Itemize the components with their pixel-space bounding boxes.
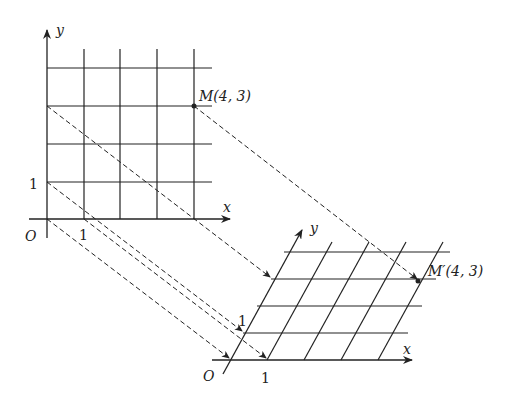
left-y-label: y xyxy=(55,22,65,38)
right-x-label: x xyxy=(403,341,411,357)
proj-origin xyxy=(47,219,229,358)
right-grid xyxy=(243,242,450,360)
right-origin-label: O xyxy=(203,368,215,384)
left-y-tick-1: 1 xyxy=(29,176,38,192)
left-origin-label: O xyxy=(25,228,37,244)
proj-y3 xyxy=(47,106,270,277)
proj-x1 xyxy=(84,219,266,358)
point-m-label: M(4, 3) xyxy=(198,88,251,104)
point-m-prime xyxy=(416,279,421,284)
point-m-prime-label: M′(4, 3) xyxy=(427,263,483,279)
left-axes xyxy=(29,30,230,238)
right-y-label: y xyxy=(309,220,319,236)
oblique-coordinate-diagram: y x O 1 1 M(4, 3) y x O 1 1 M′(4, 3) xyxy=(0,0,505,403)
left-grid xyxy=(47,49,212,219)
proj-y1 xyxy=(47,182,242,331)
right-x-tick-1: 1 xyxy=(261,370,270,386)
right-y-axis xyxy=(223,230,302,374)
left-x-label: x xyxy=(223,199,231,215)
right-y-tick-1: 1 xyxy=(238,313,247,329)
proj-m xyxy=(194,106,417,279)
left-x-tick-1: 1 xyxy=(79,227,88,243)
